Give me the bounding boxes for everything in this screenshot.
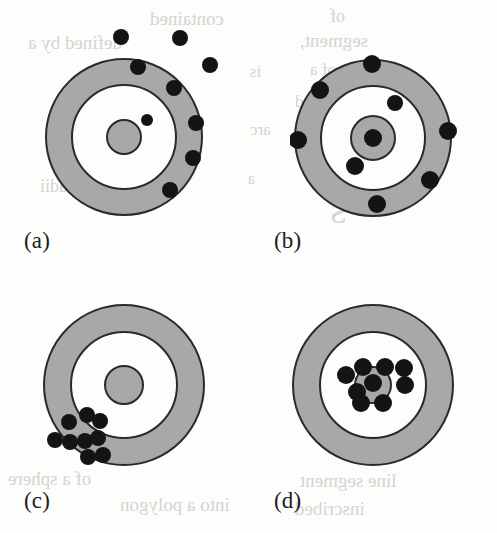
panel-label-c: (c): [24, 488, 50, 514]
bleedthrough-text: a: [248, 170, 255, 188]
shot-marker: [311, 81, 329, 99]
shot-marker: [421, 171, 439, 189]
bleedthrough-text: inscribed: [295, 498, 365, 520]
target-rings-b: [290, 10, 470, 225]
shot-marker: [113, 29, 129, 45]
panel-label-a: (a): [24, 228, 50, 254]
shot-marker: [364, 129, 382, 147]
bleedthrough-text: into a polygon: [120, 494, 230, 516]
bleedthrough-text: arc: [250, 120, 271, 140]
shot-marker: [90, 430, 106, 446]
shot-marker: [387, 95, 403, 111]
shot-marker: [396, 376, 414, 394]
shot-marker: [166, 80, 182, 96]
shot-marker: [185, 150, 201, 166]
bleedthrough-text: is: [250, 62, 261, 82]
shot-marker: [62, 434, 78, 450]
shot-marker: [162, 182, 178, 198]
target-bullseye: [105, 366, 143, 404]
shot-marker: [47, 432, 63, 448]
shot-marker: [92, 413, 108, 429]
figure-container: containedofdefined by asegment,isof acon…: [0, 0, 497, 533]
shot-marker: [188, 115, 204, 131]
shot-marker: [395, 359, 413, 377]
shot-marker: [363, 55, 381, 73]
target-panel-b: [290, 10, 470, 225]
target-bullseye: [107, 120, 141, 154]
shot-marker: [172, 30, 188, 46]
target-panel-a: [38, 10, 218, 225]
shot-marker: [439, 122, 457, 140]
shot-marker: [346, 157, 364, 175]
target-panel-d: [290, 295, 470, 485]
shot-marker: [337, 366, 355, 384]
target-rings-c: [40, 295, 220, 485]
shot-marker: [364, 374, 382, 392]
panel-label-b: (b): [274, 228, 301, 254]
shot-marker: [202, 57, 218, 73]
shot-marker: [95, 447, 111, 463]
target-panel-c: [40, 295, 220, 485]
target-rings-a: [38, 10, 218, 225]
shot-marker: [374, 394, 392, 412]
target-rings-d: [290, 295, 470, 485]
shot-marker: [141, 114, 153, 126]
panel-label-d: (d): [274, 488, 301, 514]
shot-marker: [368, 195, 386, 213]
shot-marker: [130, 59, 146, 75]
shot-marker: [354, 358, 372, 376]
shot-marker: [80, 449, 96, 465]
shot-marker: [376, 358, 394, 376]
shot-marker: [352, 394, 370, 412]
shot-marker: [61, 414, 77, 430]
